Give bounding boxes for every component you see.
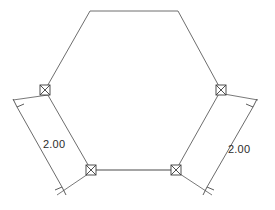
extension-line-right-bottom	[180, 174, 212, 195]
extension-line-left-bottom	[57, 174, 88, 195]
hexagon-dimension-drawing: 2.00 2.00	[0, 0, 275, 210]
node-marker-left[interactable]	[40, 85, 50, 95]
hexagon-edge-upper-left	[45, 11, 90, 90]
node-marker-bottom-left[interactable]	[86, 165, 96, 175]
arrow-head-right-top	[246, 99, 257, 107]
node-marker-bottom-right[interactable]	[171, 165, 181, 175]
hexagon-edge-lower-left	[45, 90, 91, 170]
extension-line-right-top	[224, 94, 258, 100]
node-marker-right[interactable]	[216, 85, 226, 95]
arrow-head-right-bottom	[203, 187, 214, 195]
dimension-label-left: 2.00	[43, 138, 65, 150]
cad-drawing-canvas: 2.00 2.00	[0, 0, 275, 210]
hexagon-edge-upper-right	[178, 11, 221, 90]
extension-line-left-top	[13, 95, 48, 100]
hexagon-edge-lower-right	[176, 90, 221, 170]
dimension-right[interactable]: 2.00	[180, 94, 258, 195]
arrow-head-left-bottom	[55, 187, 66, 195]
hexagon-outline[interactable]	[45, 11, 221, 170]
dimension-label-right: 2.00	[228, 143, 250, 155]
